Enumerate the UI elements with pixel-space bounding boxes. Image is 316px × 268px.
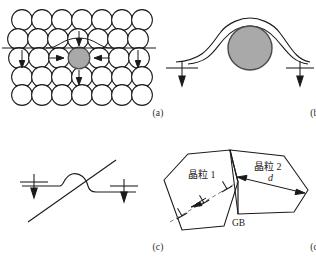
figure-root: (a) (b) (0, 0, 316, 268)
jogged-dislocation-line (22, 174, 136, 192)
grain-1-shape (164, 150, 238, 230)
grain-2-label: 晶粒 2 (254, 160, 282, 172)
panel-a-drawing (0, 0, 158, 108)
dislocation-symbols (172, 178, 232, 219)
solute-atom (68, 47, 90, 69)
panel-d-caption: (d) (158, 242, 316, 252)
inclined-plane-line (28, 160, 116, 222)
stress-arrow-right (110, 179, 138, 202)
grain-1-label: 晶粒 1 (188, 168, 216, 180)
grain-boundary-label: GB (232, 218, 245, 228)
panel-d-drawing: 晶粒 1 晶粒 2 d GB (158, 134, 316, 242)
stress-arrow-right (286, 61, 314, 86)
grain-size-label: d (268, 172, 274, 183)
panel-b-caption: (b) (158, 108, 316, 118)
obstacle-particle (228, 26, 272, 70)
stress-arrow-left (166, 61, 198, 86)
panel-c-drawing (0, 134, 158, 242)
panel-b-drawing (158, 0, 316, 108)
